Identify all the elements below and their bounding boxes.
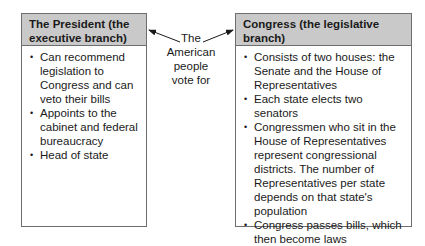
- list-item: Appoints to the cabinet and federal bure…: [29, 106, 140, 148]
- list-item: Each state elects two senators: [243, 92, 405, 120]
- list-item: Head of state: [29, 148, 140, 162]
- connector-line: people: [147, 59, 235, 73]
- connector-line: The: [147, 31, 235, 45]
- congress-title: Congress (the legislative branch): [236, 14, 411, 46]
- president-box: The President (the executive branch) Can…: [21, 13, 147, 227]
- connector-label: The American people vote for: [147, 31, 235, 87]
- list-item: Consists of two houses: the Senate and t…: [243, 50, 405, 92]
- congress-list: Consists of two houses: the Senate and t…: [236, 46, 411, 246]
- list-item: Can recommend legislation to Congress an…: [29, 50, 140, 106]
- president-title: The President (the executive branch): [22, 14, 146, 46]
- president-list: Can recommend legislation to Congress an…: [22, 46, 146, 162]
- connector-line: vote for: [147, 73, 235, 87]
- congress-box: Congress (the legislative branch) Consis…: [235, 13, 412, 227]
- list-item: Congress passes bills, which then become…: [243, 218, 405, 246]
- list-item: Congressmen who sit in the House of Repr…: [243, 120, 405, 218]
- connector-line: American: [147, 45, 235, 59]
